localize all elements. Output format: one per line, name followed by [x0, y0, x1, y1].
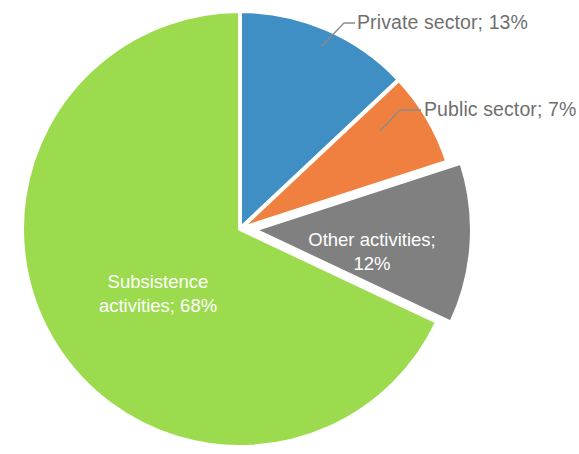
- slice-label-other-activities-line1: Other activities;: [297, 228, 447, 252]
- slice-label-subsistence-activities-line1: Subsistence: [58, 270, 258, 294]
- pie-chart-figure: Private sector; 13% Public sector; 7% Ot…: [0, 0, 579, 454]
- slice-label-public-sector: Public sector; 7%: [424, 98, 576, 120]
- pie-chart-canvas: [0, 0, 579, 454]
- slice-label-subsistence-activities-line2: activities; 68%: [58, 294, 258, 318]
- slice-label-other-activities: Other activities; 12%: [297, 228, 447, 277]
- slice-label-private-sector: Private sector; 13%: [357, 11, 528, 33]
- slice-label-other-activities-line2: 12%: [297, 252, 447, 276]
- slice-label-subsistence-activities: Subsistence activities; 68%: [58, 270, 258, 319]
